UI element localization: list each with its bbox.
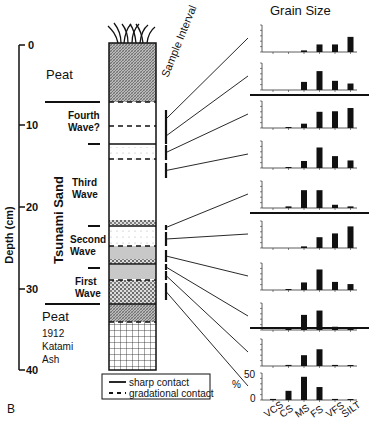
bar	[301, 124, 307, 128]
bar	[301, 161, 307, 168]
depth-tick-10: 10	[26, 119, 38, 131]
sample-intervals	[166, 38, 248, 386]
bar	[317, 269, 323, 290]
bar	[348, 108, 354, 128]
connector-line	[166, 154, 248, 171]
bar	[348, 226, 354, 248]
label-second-wave-1: Second	[70, 234, 106, 245]
category-labels: VCSCSMSFSVFSSILT	[262, 399, 363, 420]
bar	[317, 387, 323, 400]
bar	[286, 167, 292, 168]
bar	[301, 246, 307, 248]
bar	[286, 127, 292, 128]
bar	[286, 206, 292, 208]
label-ash-3: Ash	[42, 354, 59, 365]
bar	[317, 147, 323, 168]
depth-tick-40: 40	[26, 364, 38, 376]
bar	[332, 233, 338, 248]
histogram-5	[260, 181, 357, 210]
label-third-wave-2: Wave	[72, 189, 98, 200]
bar	[348, 37, 354, 52]
connector-line	[166, 256, 248, 276]
bar	[332, 282, 338, 290]
bar	[348, 365, 354, 366]
tsunami-sand-label: Tsunami Sand	[51, 176, 66, 264]
label-fourth-wave-1: Fourth	[68, 110, 100, 121]
label-fourth-wave-2: Wave?	[68, 122, 100, 133]
histogram-7	[260, 263, 357, 292]
label-ash-2: Katami	[42, 341, 73, 352]
bar	[301, 282, 307, 290]
histogram-9	[260, 339, 357, 368]
bar	[317, 112, 323, 128]
histogram-3	[260, 101, 357, 130]
depth-axis-label: Depth (cm)	[3, 206, 15, 264]
connector-line	[166, 234, 248, 239]
connector-line	[166, 267, 248, 316]
tsunami-core-figure: 0 10 20 30 40 Depth (cm) Peat Fourth Wav…	[0, 0, 369, 421]
bar	[270, 399, 276, 400]
sample-interval-label: Sample Interval	[159, 3, 199, 78]
bar	[317, 237, 323, 248]
histogram-1	[260, 25, 357, 54]
bar	[286, 289, 292, 290]
bar	[332, 205, 338, 208]
connector-line	[166, 276, 248, 353]
bar	[332, 44, 338, 52]
grain-size-title: Grain Size	[270, 3, 331, 18]
bar	[348, 160, 354, 168]
bar	[317, 190, 323, 208]
bar	[332, 81, 338, 90]
category-label-fs: FS	[308, 403, 325, 420]
sediment-core	[108, 23, 156, 370]
bar	[286, 365, 292, 366]
percent-tick-50: 50	[244, 369, 256, 380]
depth-tick-30: 30	[26, 283, 38, 295]
histogram-2	[260, 63, 357, 92]
bar	[348, 399, 354, 400]
bar	[332, 111, 338, 128]
histogram-10	[260, 373, 357, 402]
bar	[301, 355, 307, 366]
bar	[286, 391, 292, 400]
depth-tick-0: 0	[28, 39, 34, 51]
percent-label: %	[232, 379, 241, 390]
grass-icon	[108, 23, 155, 43]
label-ash-1: 1912	[42, 328, 65, 339]
bar	[348, 206, 354, 208]
label-third-wave-1: Third	[72, 177, 97, 188]
label-first-wave-2: Wave	[75, 288, 101, 299]
bar	[332, 399, 338, 400]
bar	[301, 82, 307, 90]
label-first-wave-1: First	[75, 276, 97, 287]
bar	[317, 71, 323, 90]
bar	[301, 190, 307, 208]
depth-tick-20: 20	[26, 201, 38, 213]
bar	[301, 377, 307, 400]
bar	[332, 365, 338, 366]
connector-line	[166, 76, 248, 136]
connector-line	[166, 292, 248, 387]
bar	[317, 44, 323, 52]
legend-gradational-contact: gradational contact	[129, 388, 214, 399]
label-peat-bottom: Peat	[42, 309, 69, 324]
histogram-4	[260, 141, 357, 170]
bar	[332, 156, 338, 168]
panel-label: B	[7, 402, 15, 416]
histogram-6	[260, 221, 357, 250]
legend-sharp-contact: sharp contact	[129, 377, 189, 388]
connector-line	[166, 114, 248, 153]
percent-tick-0: 0	[250, 393, 256, 404]
category-label-silt: SILT	[339, 399, 362, 420]
bar	[301, 50, 307, 52]
label-peat-top: Peat	[46, 67, 73, 82]
bar	[317, 349, 323, 366]
bar	[348, 284, 354, 290]
depth-axis: 0 10 20 30 40 Depth (cm)	[3, 39, 38, 376]
label-second-wave-2: Wave	[70, 246, 96, 257]
connector-line	[166, 194, 248, 228]
bar	[348, 84, 354, 90]
unit-labels: Peat Fourth Wave? Third Wave Second Wave…	[42, 67, 106, 365]
contact-legend: sharp contact gradational contact	[102, 374, 214, 399]
